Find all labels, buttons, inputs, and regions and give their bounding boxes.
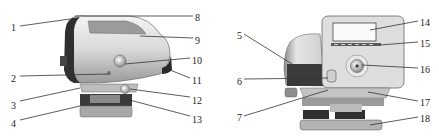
- leveling-screw-left: [303, 110, 329, 119]
- horizontal-circle: [300, 88, 390, 98]
- callout-label-8: 8: [195, 12, 200, 23]
- callout-label-15: 15: [420, 38, 430, 49]
- callout-label-10: 10: [192, 55, 202, 66]
- leader-line-1: [20, 19, 70, 26]
- instrument-side-view: [60, 16, 172, 117]
- callout-label-13: 13: [192, 114, 202, 125]
- callout-label-3: 3: [11, 100, 16, 111]
- leader-line-4: [20, 106, 80, 120]
- base-plate-front: [300, 120, 382, 130]
- side-dark-panel: [287, 64, 323, 86]
- callout-label-9: 9: [195, 35, 200, 46]
- digital-level-diagram: 123489101112135671415161718: [0, 0, 439, 137]
- leader-line-5: [244, 34, 292, 64]
- leader-line-12: [130, 89, 190, 97]
- callout-label-14: 14: [420, 17, 430, 28]
- callout-label-2: 2: [11, 73, 16, 84]
- callout-label-6: 6: [237, 76, 242, 87]
- instrument-front-view: [284, 16, 404, 130]
- callout-label-11: 11: [192, 75, 202, 86]
- focus-knob: [114, 55, 126, 67]
- measure-button-center: [355, 64, 359, 68]
- leader-line-3: [20, 88, 80, 101]
- callout-label-16: 16: [420, 64, 430, 75]
- battery-latch: [327, 70, 336, 82]
- callout-label-1: 1: [11, 22, 16, 33]
- callout-label-7: 7: [237, 112, 242, 123]
- callout-label-17: 17: [420, 97, 430, 108]
- eyepiece: [60, 56, 67, 66]
- side-knob: [285, 88, 297, 97]
- tribrach-posts: [330, 104, 362, 112]
- display-window: [333, 23, 376, 41]
- base-plate: [80, 106, 132, 117]
- tribrach-screws: [90, 95, 120, 103]
- callout-label-4: 4: [11, 118, 16, 129]
- callout-label-12: 12: [192, 95, 202, 106]
- leader-line-11: [170, 70, 190, 78]
- horizontal-drive-knob: [121, 85, 130, 94]
- callout-label-5: 5: [237, 30, 242, 41]
- callout-label-18: 18: [420, 113, 430, 124]
